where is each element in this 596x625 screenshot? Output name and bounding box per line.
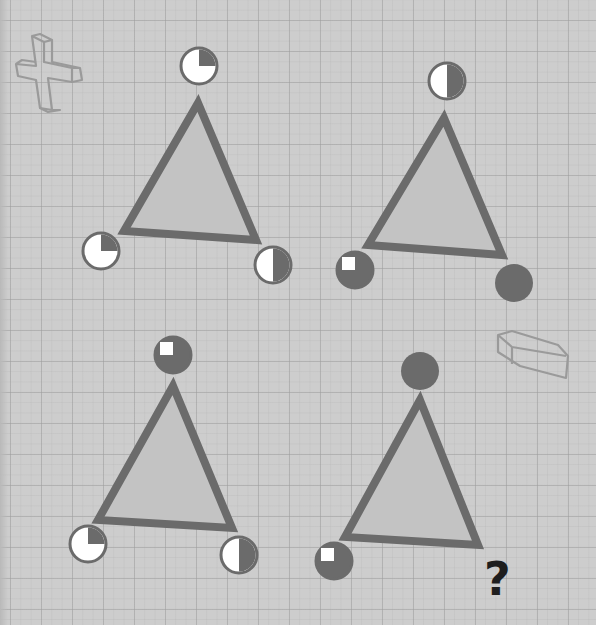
plus-doodle-icon <box>16 34 82 112</box>
pie-circle-half <box>255 247 291 283</box>
triangle-bottom-right <box>345 400 478 545</box>
pie-circle-three-quarters <box>337 252 373 288</box>
puzzle-canvas <box>0 0 596 625</box>
pie-circle-three-quarters <box>155 337 191 373</box>
pie-circle-quarter <box>181 48 217 84</box>
minus-doodle-icon <box>498 331 568 378</box>
triangle-top-right <box>368 118 502 255</box>
triangle-bottom-left <box>98 386 232 528</box>
pie-circle-half <box>221 537 257 573</box>
question-mark: ? <box>484 556 511 602</box>
pie-circle-three-quarters <box>316 543 352 579</box>
pie-circle-quarter <box>83 233 119 269</box>
triangle-top-left <box>124 103 256 240</box>
pie-circle-quarter <box>70 526 106 562</box>
pie-circle-half <box>429 63 465 99</box>
pie-circle-full <box>495 264 533 302</box>
pie-circle-full <box>401 352 439 390</box>
